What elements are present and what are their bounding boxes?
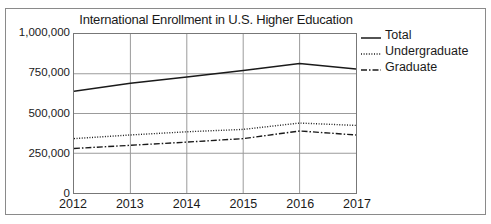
chart-title: International Enrollment in U.S. Higher … — [66, 12, 366, 27]
dash-dot-line-icon — [361, 62, 381, 74]
y-axis-tick-label: 500,000 — [8, 108, 70, 119]
chart-figure: International Enrollment in U.S. Higher … — [5, 8, 486, 215]
y-axis-tick-label: 1,000,000 — [8, 27, 70, 38]
plot-svg — [74, 34, 356, 193]
y-axis-tick-labels: 0250,000500,000750,0001,000,000 — [6, 9, 70, 209]
x-axis-tick-label: 2017 — [334, 197, 380, 211]
x-axis-tick-labels: 201220132014201520162017 — [73, 197, 363, 215]
legend-item-label: Undergraduate — [385, 45, 468, 58]
legend-item-total[interactable]: Total — [361, 28, 485, 43]
dotted-line-icon — [361, 46, 381, 58]
plot-area — [73, 33, 357, 194]
x-axis-tick-label: 2014 — [164, 197, 210, 211]
series-line-undergraduate — [74, 123, 356, 139]
y-axis-tick-label: 750,000 — [8, 67, 70, 78]
gridlines — [74, 34, 356, 193]
chart-legend: TotalUndergraduateGraduate — [361, 28, 485, 76]
y-axis-tick-label: 250,000 — [8, 148, 70, 159]
legend-item-undergraduate[interactable]: Undergraduate — [361, 44, 485, 59]
x-axis-tick-label: 2012 — [50, 197, 96, 211]
series-lines — [74, 63, 356, 148]
x-axis-tick-label: 2016 — [277, 197, 323, 211]
series-line-graduate — [74, 131, 356, 148]
x-axis-tick-label: 2013 — [107, 197, 153, 211]
legend-item-graduate[interactable]: Graduate — [361, 60, 485, 75]
series-line-total — [74, 63, 356, 91]
legend-item-label: Total — [385, 29, 411, 42]
solid-line-icon — [361, 30, 381, 42]
x-axis-tick-label: 2015 — [220, 197, 266, 211]
legend-item-label: Graduate — [385, 61, 437, 74]
